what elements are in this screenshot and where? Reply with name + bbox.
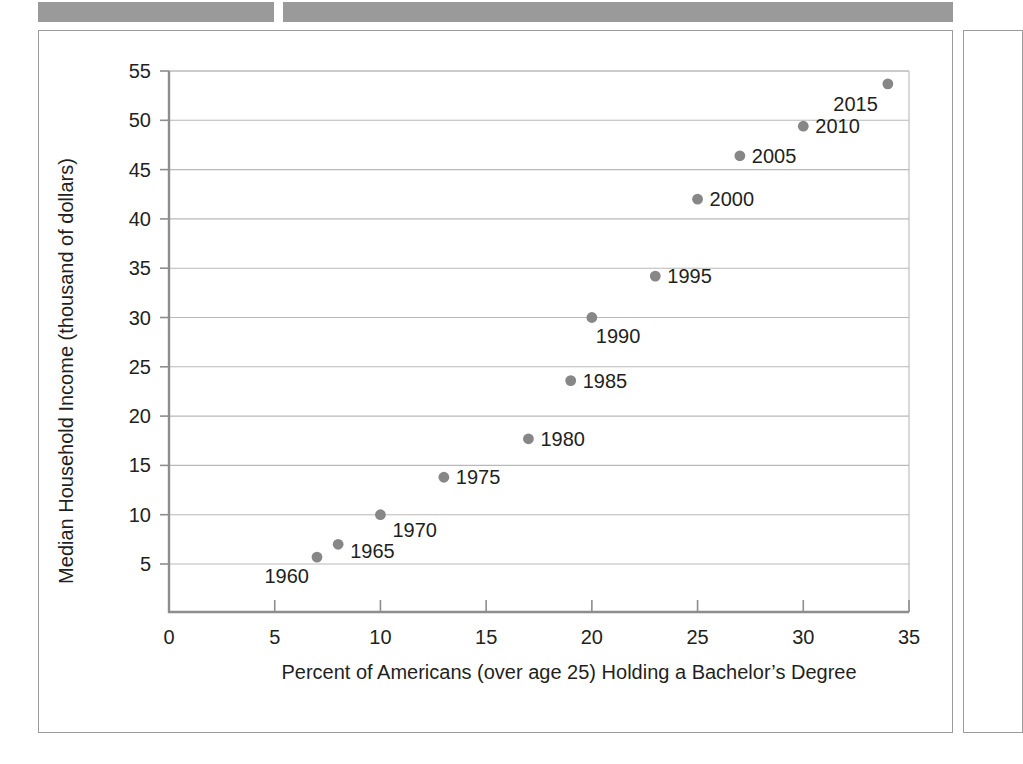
data-point-label: 1975	[456, 466, 501, 488]
data-point	[312, 552, 323, 563]
x-tick-label: 30	[792, 626, 814, 648]
data-point	[882, 78, 893, 89]
data-point	[565, 375, 576, 386]
data-point-label: 1995	[667, 265, 712, 287]
data-point	[734, 150, 745, 161]
figure-card: 510152025303540455055 05101520253035 196…	[38, 30, 953, 733]
grid-lines	[169, 71, 909, 612]
x-tick-label: 10	[369, 626, 391, 648]
data-point	[692, 194, 703, 205]
data-point-label: 1965	[350, 540, 395, 562]
y-tick-label: 40	[129, 208, 151, 230]
x-axis-tick-labels: 05101520253035	[163, 626, 920, 648]
chart-svg: 510152025303540455055 05101520253035 196…	[39, 31, 954, 734]
x-tick-label: 15	[475, 626, 497, 648]
y-tick-label: 20	[129, 405, 151, 427]
data-point	[798, 121, 809, 132]
data-point-label: 1960	[265, 565, 310, 587]
y-axis-tick-labels: 510152025303540455055	[129, 60, 151, 575]
data-point-label: 2000	[710, 188, 755, 210]
data-point	[333, 539, 344, 550]
redacted-header-bar-right	[283, 2, 953, 22]
data-point	[586, 312, 597, 323]
y-tick-label: 30	[129, 307, 151, 329]
data-point-label: 2010	[815, 115, 860, 137]
data-point-group	[312, 78, 894, 562]
data-point-label: 1980	[540, 428, 585, 450]
axis-frame	[169, 71, 909, 612]
redacted-header-bar-left	[38, 2, 274, 22]
y-tick-label: 15	[129, 454, 151, 476]
y-tick-label: 5	[140, 553, 151, 575]
x-tick-label: 35	[898, 626, 920, 648]
data-point-label: 1985	[583, 370, 628, 392]
y-tick-label: 10	[129, 504, 151, 526]
x-tick-label: 0	[163, 626, 174, 648]
data-point	[375, 509, 386, 520]
x-tick-label: 5	[269, 626, 280, 648]
adjacent-page-card	[963, 30, 1023, 733]
data-point-label: 2005	[752, 145, 797, 167]
data-point	[438, 472, 449, 483]
data-point-labels: 1960196519701975198019851990199520002005…	[265, 93, 878, 587]
y-tick-label: 35	[129, 257, 151, 279]
data-point-label: 2015	[833, 93, 878, 115]
data-point	[650, 271, 661, 282]
data-point-label: 1990	[596, 325, 641, 347]
axis-lines	[169, 71, 909, 612]
x-tick-label: 25	[686, 626, 708, 648]
y-tick-label: 55	[129, 60, 151, 82]
x-tick-label: 20	[581, 626, 603, 648]
y-tick-label: 25	[129, 356, 151, 378]
y-tick-label: 45	[129, 159, 151, 181]
data-point	[523, 433, 534, 444]
data-point-label: 1970	[392, 519, 437, 541]
y-axis-title: Median Household Income (thousand of dol…	[55, 158, 77, 584]
y-tick-label: 50	[129, 109, 151, 131]
tick-marks	[160, 71, 909, 612]
scatter-chart: 510152025303540455055 05101520253035 196…	[39, 31, 954, 734]
x-axis-title: Percent of Americans (over age 25) Holdi…	[281, 661, 856, 683]
